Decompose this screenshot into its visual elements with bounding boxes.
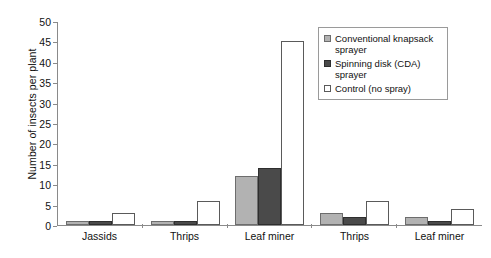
legend-swatch-control bbox=[324, 85, 331, 92]
y-axis-tick-mark bbox=[53, 104, 57, 105]
x-axis-labels: JassidsThripsLeaf minerThripsLeaf miner bbox=[57, 230, 482, 242]
bar-group bbox=[143, 22, 228, 225]
y-axis-tick-mark bbox=[53, 144, 57, 145]
bar bbox=[197, 201, 220, 225]
y-axis-tick-label: 5 bbox=[23, 200, 51, 212]
legend-label: Conventional knapsack sprayer bbox=[335, 33, 442, 55]
y-axis-tick-label: 15 bbox=[23, 159, 51, 171]
legend-swatch-spinning-disk bbox=[324, 60, 331, 67]
y-axis-tick-mark bbox=[53, 226, 57, 227]
x-axis-label: Leaf miner bbox=[227, 230, 312, 242]
bar-chart: Number of insects per plant 504540353025… bbox=[0, 0, 491, 258]
bar bbox=[174, 221, 197, 225]
bar bbox=[112, 213, 135, 225]
y-axis-tick-label: 10 bbox=[23, 179, 51, 191]
y-axis-tick-label: 35 bbox=[23, 77, 51, 89]
bar bbox=[343, 217, 366, 225]
bar bbox=[405, 217, 428, 225]
y-axis-tick-mark bbox=[53, 63, 57, 64]
x-axis-line bbox=[57, 225, 482, 226]
y-axis-tick-label: 50 bbox=[23, 16, 51, 28]
bar bbox=[258, 168, 281, 225]
x-axis-label: Thrips bbox=[312, 230, 397, 242]
legend-swatch-conventional bbox=[324, 35, 331, 42]
bar bbox=[428, 221, 451, 225]
y-axis-tick-mark bbox=[53, 22, 57, 23]
legend-label: Control (no spray) bbox=[335, 83, 442, 94]
bar bbox=[66, 221, 89, 225]
legend-item: Spinning disk (CDA) sprayer bbox=[324, 58, 442, 80]
bar bbox=[320, 213, 343, 225]
chart-legend: Conventional knapsack sprayer Spinning d… bbox=[318, 27, 448, 100]
y-axis-tick-label: 20 bbox=[23, 138, 51, 150]
x-axis-label: Thrips bbox=[142, 230, 227, 242]
y-axis-tick-label: 0 bbox=[23, 220, 51, 232]
y-axis-tick-mark bbox=[53, 83, 57, 84]
bar bbox=[281, 41, 304, 225]
legend-label: Spinning disk (CDA) sprayer bbox=[335, 58, 442, 80]
y-axis-tick-label: 40 bbox=[23, 57, 51, 69]
y-axis-tick-mark bbox=[53, 185, 57, 186]
y-axis-tick-label: 45 bbox=[23, 36, 51, 48]
bar bbox=[151, 221, 174, 225]
bar bbox=[366, 201, 389, 225]
legend-item: Control (no spray) bbox=[324, 83, 442, 94]
y-axis-tick-mark bbox=[53, 165, 57, 166]
bar bbox=[451, 209, 474, 225]
y-axis-tick-label: 25 bbox=[23, 118, 51, 130]
bar-group bbox=[58, 22, 143, 225]
y-axis-tick-label: 30 bbox=[23, 98, 51, 110]
x-axis-label: Jassids bbox=[57, 230, 142, 242]
y-axis-tick-mark bbox=[53, 206, 57, 207]
y-axis-tick-mark bbox=[53, 124, 57, 125]
legend-item: Conventional knapsack sprayer bbox=[324, 33, 442, 55]
bar bbox=[89, 221, 112, 225]
bar-group bbox=[228, 22, 313, 225]
y-axis-tick-mark bbox=[53, 42, 57, 43]
x-axis-label: Leaf miner bbox=[397, 230, 482, 242]
bar bbox=[235, 176, 258, 225]
